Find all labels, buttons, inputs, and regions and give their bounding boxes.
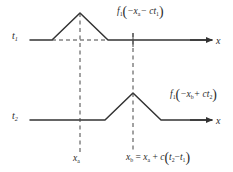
time-label-t1: t1 [12, 31, 18, 42]
axis-label-x-top: x [216, 36, 220, 46]
axis-label-x-bottom: x [216, 116, 220, 126]
position-label-xa: xa [73, 154, 80, 165]
wave-pulse-diagram [0, 0, 233, 172]
expression-t1: f1(−xa− ct1) [117, 7, 164, 18]
time-label-t2: t2 [12, 111, 18, 122]
expression-t2: f1(−xb+ ct2) [170, 90, 217, 101]
position-equation-xb: xb = xa + c(t2−t1) [126, 153, 190, 164]
